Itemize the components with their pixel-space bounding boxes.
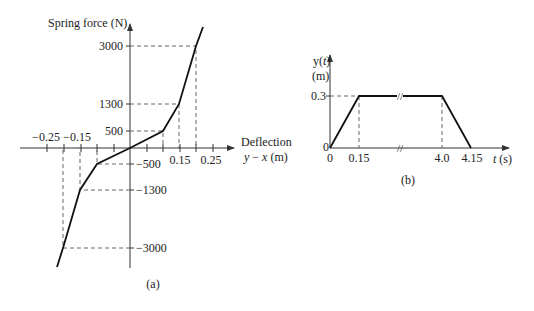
y-axis-label-b: y(t)	[313, 54, 330, 68]
y-tick-neg3000: −3000	[136, 241, 167, 255]
x-tick-015: 0.15	[349, 151, 370, 165]
y-axis-unit-b: (m)	[312, 69, 329, 83]
x-tick-415: 4.15	[462, 151, 483, 165]
axis-break-time: //	[397, 142, 404, 154]
displacement-curve-rise	[330, 96, 397, 148]
y-tick-neg500: −500	[136, 157, 161, 171]
x-axis-label-a-line2: y − x (m)	[243, 150, 288, 164]
chart-b-displacement: // // y(t) (m) 0.3 0 0 0.15 4.0 4.15 t (…	[311, 54, 512, 187]
x-axis-label-a-line1: Deflection	[241, 135, 292, 149]
y-tick-500: 500	[105, 124, 123, 138]
x-tick-0: 0	[327, 151, 333, 165]
x-axis-label-b: t (s)	[493, 152, 512, 166]
y-axis-label-a: Spring force (N)	[48, 16, 127, 30]
displacement-curve-fall	[403, 96, 471, 148]
x-tick-015: 0.15	[170, 153, 191, 167]
y-tick-neg1300: −1300	[136, 183, 167, 197]
figure: Spring force (N) 3000 1300 500 −500 −130…	[0, 0, 534, 311]
caption-b: (b)	[401, 173, 415, 187]
x-tick-40: 4.0	[435, 151, 450, 165]
guide-lines-b	[330, 96, 442, 148]
x-tick-025: 0.25	[201, 153, 222, 167]
axis-break-plateau: //	[397, 90, 404, 102]
caption-a: (a)	[146, 277, 159, 291]
chart-a-spring-force: Spring force (N) 3000 1300 500 −500 −130…	[20, 16, 292, 291]
x-tick-neg015: −0.15	[63, 130, 91, 144]
y-tick-3000: 3000	[99, 39, 123, 53]
y-tick-03: 0.3	[311, 89, 326, 103]
x-tick-neg025: −0.25	[32, 130, 60, 144]
y-tick-1300: 1300	[99, 97, 123, 111]
